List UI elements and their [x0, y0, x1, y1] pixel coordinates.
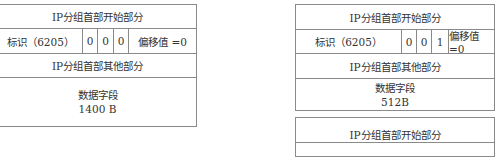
flag-reserved-cell: 0: [402, 30, 417, 53]
identifier-label: 标识（6205）: [315, 34, 382, 49]
header-other-row: IP分组首部其他部分: [0, 54, 196, 78]
offset-label: 偏移值 =0: [138, 34, 187, 49]
header-start-row: IP分组首部开始部分: [0, 5, 196, 29]
identifier-cell: 标识（6205）: [296, 30, 402, 53]
header-start-row: IP分组首部开始部分: [296, 118, 494, 143]
flag-df-cell: 0: [417, 30, 432, 53]
identifier-cell: 标识（6205）: [0, 29, 83, 53]
offset-cell: 偏移值=0: [449, 30, 494, 53]
header-other-label: IP分组首部其他部分: [52, 58, 143, 73]
offset-cell: 偏移值 =0: [129, 29, 196, 53]
header-start-label: IP分组首部开始部分: [52, 9, 143, 24]
fields-row: 标识（6205） 0 0 0 偏移值 =0: [0, 29, 196, 54]
data-field-size: 1400 B: [79, 102, 117, 116]
fields-row: 标识（6205） 0 0 1 偏移值=0: [296, 30, 494, 54]
data-field-row: 数据字段 512B: [296, 79, 494, 111]
data-field-label: 数据字段: [375, 81, 415, 95]
data-field-size: 512B: [381, 95, 409, 109]
flag-df-value: 0: [102, 35, 109, 47]
header-start-label: IP分组首部开始部分: [349, 127, 440, 142]
offset-label: 偏移值=0: [449, 28, 494, 55]
flag-reserved-value: 0: [87, 35, 94, 47]
data-field-label: 数据字段: [78, 88, 118, 102]
header-start-row: IP分组首部开始部分: [296, 5, 494, 30]
flag-mf-cell: 0: [114, 29, 129, 53]
data-field-row: 数据字段 1400 B: [0, 78, 196, 126]
flag-df-value: 0: [421, 36, 428, 48]
packet-fragment-1: IP分组首部开始部分 标识（6205） 0 0 1 偏移值=0 IP分组首部其他…: [295, 4, 495, 111]
flag-df-cell: 0: [98, 29, 114, 53]
header-other-row: IP分组首部其他部分: [296, 54, 494, 79]
flag-mf-value: 1: [437, 36, 444, 48]
flag-mf-cell: 1: [432, 30, 449, 53]
packet-original: IP分组首部开始部分 标识（6205） 0 0 0 偏移值 =0 IP分组首部其…: [0, 4, 197, 127]
flag-mf-value: 0: [118, 35, 125, 47]
header-start-label: IP分组首部开始部分: [349, 10, 440, 25]
flag-reserved-value: 0: [406, 36, 413, 48]
flag-reserved-cell: 0: [83, 29, 98, 53]
header-other-label: IP分组首部其他部分: [349, 59, 440, 74]
identifier-label: 标识（6205）: [7, 34, 74, 49]
packet-fragment-2: IP分组首部开始部分: [295, 117, 495, 157]
